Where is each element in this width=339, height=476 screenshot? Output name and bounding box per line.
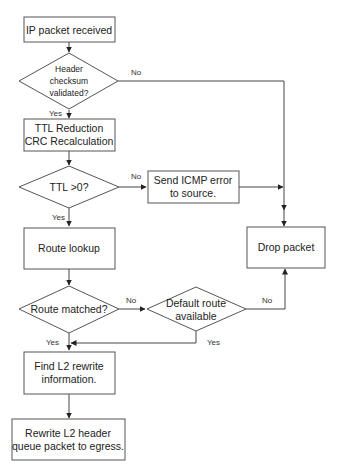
edge-label-ttl-yes: Yes [52,213,65,222]
node-label: Rewrite L2 header [25,427,111,439]
node-label: queue packet to egress. [12,440,124,452]
node-send-icmp: Send ICMP error to source. [148,171,239,203]
node-label: Send ICMP error [154,174,233,186]
node-checksum-decision: Header checksum validated? [19,53,118,109]
node-label: Route matched? [30,303,107,315]
node-ttl-reduction: TTL Reduction CRC Recalculation [24,119,115,151]
edge-label-route-yes: Yes [46,338,59,347]
node-route-matched-decision: Route matched? [19,286,119,333]
edge-label-ttl-no: No [131,172,142,181]
node-drop-packet: Drop packet [247,227,325,268]
node-label: TTL >0? [49,181,88,193]
edge-label-default-yes: Yes [207,338,220,347]
node-route-lookup: Route lookup [24,228,115,269]
node-label: Default route [166,297,226,309]
node-rewrite-l2: Rewrite L2 header queue packet to egress… [12,419,125,460]
node-label: CRC Recalculation [25,135,114,147]
edge-label-checksum-yes: Yes [49,109,62,118]
node-label: Header [55,64,83,74]
node-label: checksum [50,76,88,86]
edge-default-yes [71,331,196,343]
node-label: available [175,310,217,322]
node-label: IP packet received [26,24,112,36]
flowchart: IP packet received Header checksum valid… [0,0,339,476]
edge-label-route-no: No [126,296,137,305]
node-label: to source. [170,187,216,199]
node-default-route-decision: Default route available [147,287,246,331]
node-label: information. [42,373,97,385]
node-ttl-decision: TTL >0? [19,166,119,208]
node-find-l2: Find L2 rewrite information. [24,352,115,394]
node-ip-received: IP packet received [24,17,115,42]
node-label: Find L2 rewrite [34,360,104,372]
edge-label-checksum-no: No [131,68,142,77]
node-label: Drop packet [258,241,315,253]
edge-label-default-no: No [262,296,273,305]
node-label: validated? [50,88,89,98]
node-label: Route lookup [38,242,100,254]
node-label: TTL Reduction [35,122,104,134]
